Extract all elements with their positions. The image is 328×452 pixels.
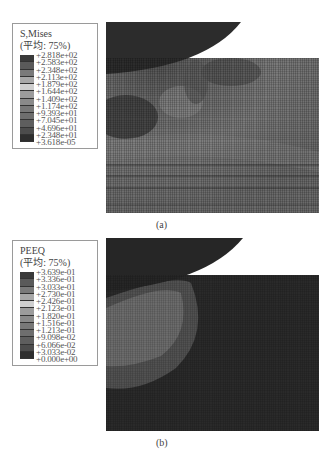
color-band bbox=[20, 84, 34, 91]
color-band bbox=[20, 330, 34, 337]
caption-b: (b) bbox=[156, 437, 168, 448]
color-band bbox=[20, 91, 34, 98]
peeq-contour-plot bbox=[106, 238, 319, 431]
color-band bbox=[20, 345, 34, 352]
caption-a: (a) bbox=[156, 219, 167, 230]
legend-variable-label: PEEQ bbox=[20, 246, 45, 256]
color-band bbox=[20, 272, 34, 279]
color-band bbox=[20, 99, 34, 106]
legend-tick-values: +3.639e-01+3.336e-01+3.033e-01+2.730e-01… bbox=[36, 269, 77, 363]
color-band bbox=[20, 294, 34, 301]
mises-contour-plot bbox=[106, 22, 319, 213]
color-band bbox=[20, 77, 34, 84]
mesh-overlay bbox=[106, 275, 319, 431]
color-band bbox=[20, 308, 34, 315]
color-band bbox=[20, 316, 34, 323]
color-band bbox=[20, 287, 34, 294]
legend-peeq: PEEQ (平均: 75%) +3.639e-01+3.336e-01+3.03… bbox=[12, 240, 98, 366]
color-bar bbox=[20, 55, 34, 142]
mesh-overlay bbox=[106, 58, 319, 213]
color-band bbox=[20, 337, 34, 344]
color-band bbox=[20, 113, 34, 120]
color-band bbox=[20, 279, 34, 286]
color-band bbox=[20, 55, 34, 62]
color-band bbox=[20, 70, 34, 77]
color-bar bbox=[20, 272, 34, 359]
color-band bbox=[20, 352, 34, 359]
color-band bbox=[20, 62, 34, 69]
legend-value: +3.618e-05 bbox=[36, 139, 77, 146]
color-band bbox=[20, 323, 34, 330]
color-band bbox=[20, 301, 34, 308]
color-band bbox=[20, 106, 34, 113]
color-band bbox=[20, 120, 34, 127]
color-band bbox=[20, 135, 34, 142]
legend-variable-label: S,Mises bbox=[20, 29, 52, 39]
color-band bbox=[20, 128, 34, 135]
legend-mises: S,Mises (平均: 75%) +2.818e+02+2.583e+02+2… bbox=[12, 23, 98, 149]
legend-value: +0.000e+00 bbox=[36, 356, 77, 363]
legend-tick-values: +2.818e+02+2.583e+02+2.348e+02+2.113e+02… bbox=[36, 52, 77, 146]
